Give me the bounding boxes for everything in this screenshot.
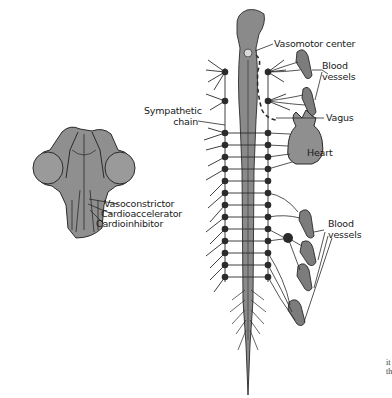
autonomic-cardiovascular-diagram: Vasomotor center Blood vessels Vagus Hea…	[0, 0, 392, 398]
blood-vessels-upper-label-2: vessels	[322, 72, 355, 82]
edge-text-2: th	[386, 367, 392, 376]
vagus-nerve	[256, 55, 276, 120]
spinal-cord	[230, 10, 266, 396]
sympathetic-chain-label-1: Sympathetic	[144, 106, 198, 116]
cardioinhibitor-label: Cardioinhibitor	[96, 219, 163, 229]
vasomotor-center-label: Vasomotor center	[274, 39, 355, 49]
edge-text-1: it	[386, 358, 390, 367]
blood-vessels-lower-label-1: Blood	[328, 219, 354, 229]
label-leaders	[198, 44, 332, 322]
blood-vessels	[288, 50, 316, 326]
blood-vessels-upper-label-1: Blood	[322, 61, 348, 71]
heart-label: Heart	[307, 148, 332, 158]
vagus-label: Vagus	[326, 113, 354, 123]
heart-illustration	[268, 110, 323, 169]
blood-vessels-lower-label-2: vessels	[328, 230, 361, 240]
sympathetic-chain-label-2: chain	[144, 117, 198, 127]
